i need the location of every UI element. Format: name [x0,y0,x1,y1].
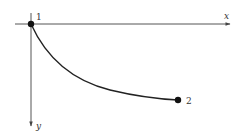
point-1: 1 [28,12,42,27]
point-2-label: 2 [186,96,192,106]
point-2: 2 [175,96,192,106]
y-axis-label: y [35,121,42,131]
x-axis-label: x [224,11,229,21]
x-axis: x [15,11,230,24]
curve-path [31,24,178,100]
point-1-label: 1 [36,12,42,22]
point-1-dot [28,21,34,27]
y-axis: y [31,13,42,131]
diagram: x y 1 2 [0,0,246,135]
point-2-dot [175,97,181,103]
